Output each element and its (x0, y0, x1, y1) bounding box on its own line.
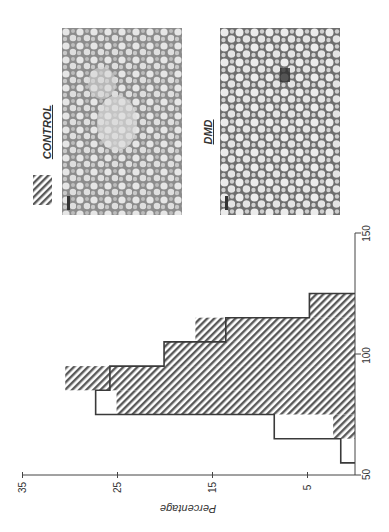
histogram-chart: 35 25 15 5 50 100 150 Percentage (0, 220, 389, 532)
pct-tick-15: 15 (207, 482, 218, 493)
pct-tick-5: 5 (302, 485, 313, 491)
control-bar (195, 318, 355, 342)
control-bar (333, 415, 355, 439)
pct-tick-35: 35 (17, 482, 28, 493)
micrograph-image-icon (220, 28, 340, 215)
control-bar (65, 366, 355, 390)
percentage-axis-title: Percentage (160, 503, 216, 515)
control-bar (309, 294, 355, 318)
size-tick-50: 50 (361, 469, 372, 480)
size-tick-150: 150 (361, 225, 372, 242)
control-bar (164, 342, 355, 366)
histogram-plot (0, 220, 389, 532)
legend-control-swatch (33, 175, 52, 205)
dmd-label: DMD (202, 110, 214, 154)
hatch-swatch-icon (33, 175, 52, 205)
control-bar (117, 390, 355, 414)
dmd-micrograph (220, 28, 340, 215)
micrograph-image-icon (62, 28, 182, 215)
control-series (65, 294, 355, 439)
size-tick-100: 100 (361, 347, 372, 364)
legend-control-label: CONTROL (41, 99, 53, 165)
control-micrograph (62, 28, 182, 215)
pct-tick-25: 25 (112, 482, 123, 493)
